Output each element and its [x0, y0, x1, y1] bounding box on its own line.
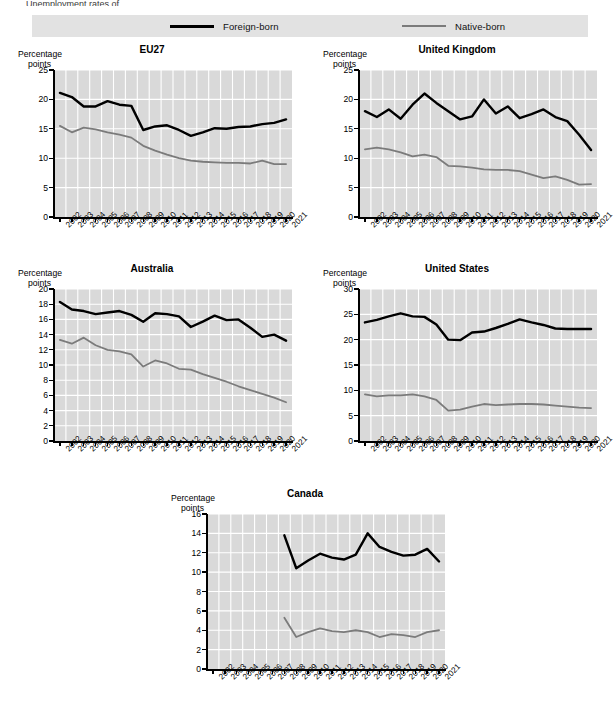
y-tick-label: 15 [327, 360, 353, 370]
y-tick [354, 158, 359, 159]
x-tick-label: 2012 [336, 675, 342, 681]
x-tick-label: 2016 [231, 223, 237, 229]
y-tick-label: 12 [22, 345, 48, 355]
x-tick [178, 218, 179, 222]
y-tick [49, 410, 54, 411]
y-tick [202, 552, 207, 553]
y-tick-label: 4 [22, 406, 48, 416]
legend-label-foreign-born: Foreign-born [223, 21, 279, 32]
x-tick-label: 2004 [88, 447, 94, 453]
x-tick [531, 218, 532, 222]
x-tick [107, 442, 108, 446]
x-tick [507, 442, 508, 446]
x-tick-label: 2018 [559, 223, 565, 229]
x-tick [83, 442, 84, 446]
x-tick-label: 2005 [100, 447, 106, 453]
y-tick-label: 14 [22, 330, 48, 340]
y-tick-label: 16 [175, 509, 201, 519]
x-tick-label: 2020 [583, 223, 589, 229]
plot-area [359, 70, 597, 217]
x-tick [178, 442, 179, 446]
y-tick-label: 2 [22, 421, 48, 431]
x-tick-label: 2018 [254, 223, 260, 229]
x-tick [238, 218, 239, 222]
x-tick-label: 2002 [64, 447, 70, 453]
x-tick [555, 218, 556, 222]
x-tick [119, 442, 120, 446]
x-tick [119, 218, 120, 222]
y-tick [202, 513, 207, 514]
y-tick-label: 5 [22, 183, 48, 193]
x-tick-label: 2021 [290, 223, 296, 229]
x-tick-label: 2005 [100, 223, 106, 229]
x-tick [71, 442, 72, 446]
x-tick [319, 670, 320, 674]
y-tick [49, 187, 54, 188]
x-tick [202, 442, 203, 446]
legend-label-native-born: Native-born [455, 21, 505, 32]
y-tick [354, 415, 359, 416]
x-tick [543, 442, 544, 446]
x-tick-label: 2011 [171, 223, 177, 229]
x-tick-label: 2013 [195, 447, 201, 453]
x-tick-label: 2015 [219, 447, 225, 453]
x-tick [143, 442, 144, 446]
x-tick-label: 2021 [443, 675, 449, 681]
x-tick [424, 218, 425, 222]
x-tick-label: 2007 [428, 447, 434, 453]
y-tick [354, 128, 359, 129]
y-tick [49, 304, 54, 305]
x-tick-label: 2013 [500, 223, 506, 229]
x-tick [214, 442, 215, 446]
x-tick [202, 218, 203, 222]
x-tick [379, 670, 380, 674]
x-tick [285, 218, 286, 222]
x-tick-label: 2006 [417, 447, 423, 453]
x-tick [131, 218, 132, 222]
x-tick [238, 442, 239, 446]
y-tick-label: 8 [22, 375, 48, 385]
x-tick [412, 442, 413, 446]
y-tick [354, 364, 359, 365]
x-tick-label: 2012 [488, 223, 494, 229]
x-tick-label: 2003 [229, 675, 235, 681]
y-tick-label: 30 [327, 284, 353, 294]
plot-area [54, 289, 292, 441]
x-tick [284, 670, 285, 674]
x-tick [95, 218, 96, 222]
x-tick-label: 2013 [348, 675, 354, 681]
x-tick-label: 2014 [207, 447, 213, 453]
x-tick [236, 670, 237, 674]
x-tick [543, 218, 544, 222]
y-tick-label: 2 [175, 645, 201, 655]
x-tick [154, 218, 155, 222]
x-tick-label: 2007 [428, 223, 434, 229]
y-tick [202, 571, 207, 572]
y-tick [49, 128, 54, 129]
y-tick [202, 533, 207, 534]
x-tick [190, 218, 191, 222]
x-tick [260, 670, 261, 674]
y-tick [49, 69, 54, 70]
x-tick-label: 2003 [381, 447, 387, 453]
plot-area [207, 514, 445, 669]
y-tick-label: 20 [22, 284, 48, 294]
chart-panel-eu27: EU27Percentagepoints05101520252002200320… [2, 44, 302, 277]
x-tick-label: 2012 [488, 447, 494, 453]
y-tick-label: 15 [22, 124, 48, 134]
x-tick-label: 2011 [476, 223, 482, 229]
x-tick-label: 2016 [384, 675, 390, 681]
x-tick [483, 218, 484, 222]
x-tick [483, 442, 484, 446]
y-tick-label: 20 [327, 94, 353, 104]
y-tick-label: 8 [175, 587, 201, 597]
y-tick [49, 288, 54, 289]
y-tick [49, 99, 54, 100]
x-tick-label: 2019 [266, 223, 272, 229]
y-tick [49, 349, 54, 350]
y-tick [49, 380, 54, 381]
x-tick-label: 2014 [360, 675, 366, 681]
x-tick-label: 2011 [171, 447, 177, 453]
y-tick-label: 18 [22, 299, 48, 309]
x-tick [507, 218, 508, 222]
